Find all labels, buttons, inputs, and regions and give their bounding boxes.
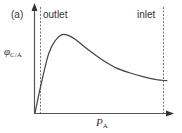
outlet-label: outlet: [43, 10, 67, 20]
panel-label: (a): [11, 10, 23, 20]
x-axis-label: PA: [96, 117, 108, 130]
y-axis-arrow-icon: [32, 3, 38, 11]
x-axis-symbol: P: [96, 116, 103, 128]
x-axis-subscript: A: [103, 122, 108, 130]
data-curve: [35, 34, 167, 113]
x-axis-arrow-icon: [166, 111, 174, 117]
y-axis-subscript: C/A: [10, 51, 22, 59]
inlet-label: inlet: [137, 10, 155, 20]
chart-figure: (a) outlet inlet φC/A PA: [0, 0, 182, 133]
y-axis-label: φC/A: [4, 46, 22, 59]
